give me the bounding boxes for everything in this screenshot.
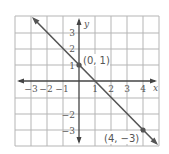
x-tick-label: 3 bbox=[124, 84, 130, 94]
x-tick-label: −3 bbox=[24, 84, 38, 94]
x-tick-labels: −3 −2 −1 1 2 3 4 bbox=[24, 84, 146, 94]
y-tick-label: 3 bbox=[69, 28, 75, 38]
x-tick-label: 4 bbox=[140, 84, 146, 94]
y-tick-label: −3 bbox=[62, 126, 76, 136]
x-axis bbox=[17, 79, 157, 84]
point-0-1 bbox=[76, 62, 81, 67]
point-label-0-1: (0, 1) bbox=[83, 55, 110, 66]
point-label-4-neg3: (4, −3) bbox=[104, 133, 139, 144]
x-tick-label: 1 bbox=[92, 84, 98, 94]
coordinate-graph: y x −3 −2 −1 1 2 3 4 3 2 1 −2 −3 (0, 1) … bbox=[0, 0, 169, 154]
x-tick-label: 2 bbox=[108, 84, 114, 94]
x-tick-label: −2 bbox=[39, 84, 52, 94]
y-tick-labels: 3 2 1 −2 −3 bbox=[62, 28, 76, 136]
y-tick-label: 1 bbox=[69, 61, 75, 71]
y-tick-label: −2 bbox=[62, 110, 75, 120]
point-4-neg3 bbox=[140, 127, 145, 132]
x-axis-left-arrow-icon bbox=[17, 79, 24, 84]
y-tick-label: 2 bbox=[69, 44, 75, 54]
x-axis-label: x bbox=[153, 83, 158, 93]
y-axis-up-arrow-icon bbox=[77, 18, 82, 25]
x-tick-label: −1 bbox=[55, 84, 68, 94]
y-axis-down-arrow-icon bbox=[77, 137, 82, 144]
y-axis-label: y bbox=[83, 19, 90, 29]
